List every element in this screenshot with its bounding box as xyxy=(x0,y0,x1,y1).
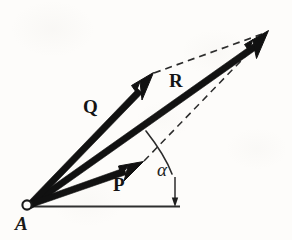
vector-label-p: P xyxy=(113,175,125,194)
vector-diagram-canvas xyxy=(0,0,292,240)
point-label-a: A xyxy=(15,214,28,233)
vector-diagram-figure: Q R P A α xyxy=(0,0,292,240)
vertical-reference-arrow xyxy=(172,177,178,207)
angle-label-alpha: α xyxy=(157,160,167,179)
vector-label-q: Q xyxy=(83,97,98,116)
vector-r xyxy=(28,31,269,209)
origin-pivot-circle xyxy=(22,200,31,209)
vector-r-shaft xyxy=(28,44,257,209)
vector-label-r: R xyxy=(169,71,183,90)
